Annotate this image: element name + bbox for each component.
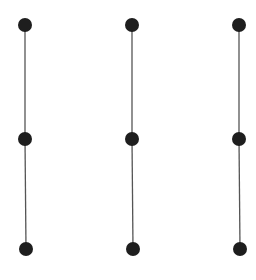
node-c1: [232, 18, 246, 32]
edge-c2-c3: [239, 139, 240, 249]
node-b3: [126, 242, 140, 256]
edge-a2-a3: [25, 139, 26, 249]
node-c2: [232, 132, 246, 146]
node-b2: [125, 132, 139, 146]
node-c3: [233, 242, 247, 256]
edge-b2-b3: [132, 139, 133, 249]
graph-canvas: [0, 0, 256, 280]
node-a3: [19, 242, 33, 256]
node-b1: [125, 18, 139, 32]
graph-diagram: [0, 0, 256, 280]
node-a1: [18, 18, 32, 32]
node-a2: [18, 132, 32, 146]
